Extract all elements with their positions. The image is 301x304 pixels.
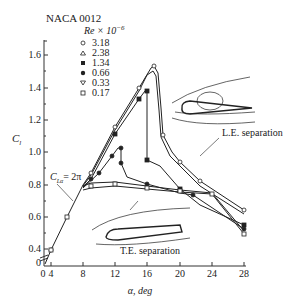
y-tick: 1.6	[29, 49, 42, 60]
x-tick: 16	[142, 268, 152, 279]
y-tick: 1.0	[29, 146, 42, 157]
y-tick-labels: 1.6 1.4 1.2 1.0 0.8 0.6 0.4 0	[29, 49, 42, 268]
y-tick: 1.4	[29, 82, 42, 93]
x-tick: 8	[81, 268, 86, 279]
y-axis-title: Cl	[12, 132, 21, 147]
open-triangle-icon	[81, 51, 86, 55]
te-separation-airfoil-icon	[92, 208, 190, 245]
x-tick: 28	[239, 268, 249, 279]
x-axis-title: α, deg	[128, 285, 153, 296]
legend: NACA 0012 Re × 10−6 3.18 2.38 1.34 0.66 …	[46, 12, 125, 98]
slope-annotation: CLα= 2π	[50, 171, 81, 201]
x-tick: 20	[175, 268, 185, 279]
x-tick: 12	[110, 268, 120, 279]
y-tick: 0	[36, 257, 41, 268]
legend-item: 0.17	[92, 87, 110, 98]
y-tick: 0.4	[29, 243, 42, 254]
open-square-icon	[81, 91, 85, 95]
y-tick: 0.8	[29, 179, 42, 190]
filled-square-icon	[81, 61, 85, 65]
open-inverted-triangle-icon	[81, 81, 86, 85]
x-tick-labels: 0 4 8 12 16 20 24 28	[41, 268, 250, 279]
data-curves	[45, 66, 244, 264]
x-tick: 0	[41, 268, 46, 279]
y-tick: 0.6	[29, 211, 42, 222]
lift-curve-chart: 1.6 1.4 1.2 1.0 0.8 0.6 0.4 0 0 4 8 12 1…	[0, 0, 301, 304]
y-tick: 1.2	[29, 114, 42, 125]
le-separation-airfoil-icon	[172, 77, 255, 124]
legend-re-label: Re × 10−6	[83, 24, 125, 36]
filled-circle-icon	[81, 71, 85, 75]
le-separation-label: L.E. separation	[222, 127, 283, 138]
x-tick: 4	[49, 268, 54, 279]
svg-text:CLα= 2π: CLα= 2π	[50, 171, 81, 184]
legend-title: NACA 0012	[46, 12, 101, 24]
le-separation-arrow-icon	[200, 138, 219, 156]
data-markers	[49, 64, 246, 252]
series-0-17-line	[83, 186, 244, 234]
axes	[40, 40, 246, 266]
x-tick: 24	[207, 268, 217, 279]
te-separation-label: T.E. separation	[120, 245, 180, 256]
te-separation-arrow-icon	[130, 201, 138, 210]
open-circle-icon	[81, 41, 85, 45]
series-0-33-line	[83, 182, 244, 231]
